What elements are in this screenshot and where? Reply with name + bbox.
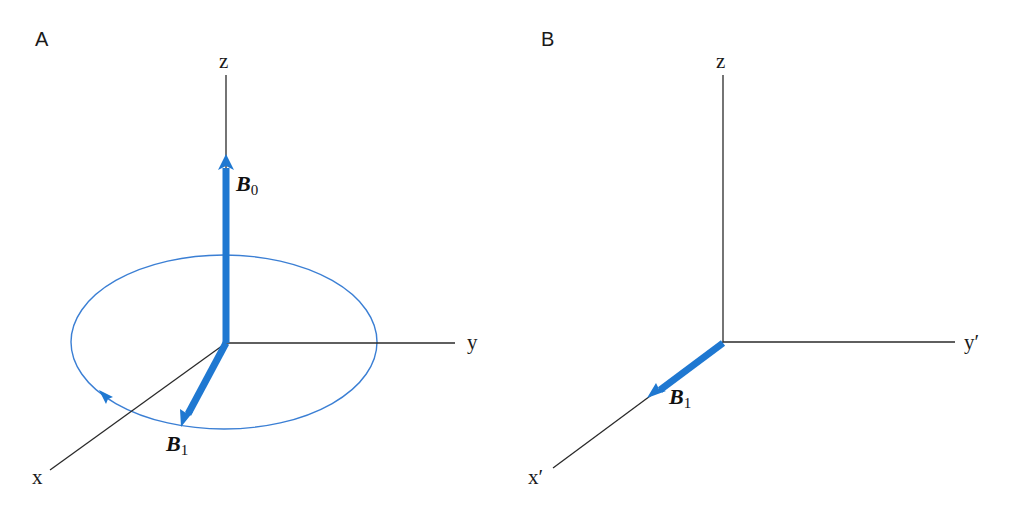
b1-label-b: B1 [668, 384, 691, 411]
b1-label-a: B1 [165, 431, 188, 458]
x-axis [50, 343, 226, 470]
b0-label: B0 [235, 171, 258, 198]
b1-vector-a [188, 343, 226, 414]
panel-b-label: B [541, 28, 554, 50]
rotation-arrow-icon [99, 390, 113, 404]
panel-a-label: A [35, 28, 49, 50]
y-prime-axis-label: y′ [964, 330, 979, 354]
diagram-canvas: A z y x B0 B1 B z y′ x′ B1 [0, 0, 1020, 524]
z-axis-label-b: z [716, 49, 725, 73]
y-axis-label: y [467, 330, 478, 354]
panel-a: A z y x B0 B1 [32, 28, 478, 489]
panel-b: B z y′ x′ B1 [528, 28, 979, 489]
x-prime-axis-label: x′ [528, 465, 543, 489]
z-axis-label: z [219, 49, 228, 73]
b1-vector-b [660, 343, 723, 390]
x-axis-label: x [32, 465, 43, 489]
